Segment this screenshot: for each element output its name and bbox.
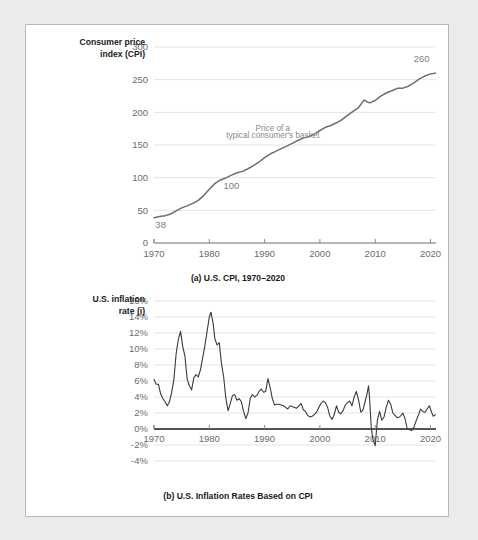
y-tick-label: -4% <box>131 455 148 466</box>
y-tick-label: 250 <box>132 74 148 85</box>
y-tick-label: 4% <box>134 391 148 402</box>
x-tick-label: 2020 <box>420 248 441 259</box>
y-tick-label: 10% <box>129 343 149 354</box>
basket-note-line2: typical consumer's basket <box>226 131 320 140</box>
chart-cpi-annotations: Price of atypical consumer's basket <box>226 124 320 141</box>
x-tick-label: 2010 <box>365 248 386 259</box>
chart-cpi-ylabel-line1: Consumer price <box>80 37 146 47</box>
chart-cpi-gridlines <box>154 47 436 210</box>
x-tick-label: 1980 <box>199 248 220 259</box>
y-tick-label: 8% <box>134 359 148 370</box>
y-tick-label: 50 <box>137 205 148 216</box>
chart-inflation-xtick-labels: 197019801990200020102020 <box>143 433 441 444</box>
x-tick-label: 1990 <box>254 433 275 444</box>
chart-inflation-axes <box>154 425 436 429</box>
chart-cpi-ytick-labels: 050100150200250300 <box>132 41 148 248</box>
chart-cpi-caption: (a) U.S. CPI, 1970–2020 <box>191 273 285 283</box>
x-tick-label: 1980 <box>199 433 220 444</box>
y-tick-label: 100 <box>132 172 148 183</box>
chart-cpi-svg: 050100150200250300 197019801990200020102… <box>26 25 450 287</box>
end-value: 260 <box>414 53 430 64</box>
y-tick-label: 6% <box>134 375 148 386</box>
chart-inflation-ylabel-line1: U.S. inflation <box>92 294 145 304</box>
chart-cpi-axes <box>154 239 436 243</box>
x-tick-label: 1970 <box>143 433 164 444</box>
chart-inflation-gridlines <box>154 301 436 461</box>
x-tick-label: 2000 <box>309 433 330 444</box>
chart-inflation: -4%-2%0%2%4%6%8%10%12%14%16% 19701980199… <box>26 283 450 518</box>
y-tick-label: 12% <box>129 327 149 338</box>
y-tick-label: 150 <box>132 139 148 150</box>
y-tick-label: 200 <box>132 107 148 118</box>
mid-value: 100 <box>223 180 239 191</box>
x-tick-label: 1990 <box>254 248 275 259</box>
y-tick-label: 2% <box>134 407 148 418</box>
chart-cpi-ylabel-line2: index (CPI) <box>100 49 145 59</box>
chart-inflation-svg: -4%-2%0%2%4%6%8%10%12%14%16% 19701980199… <box>26 283 450 518</box>
chart-cpi: 050100150200250300 197019801990200020102… <box>26 25 450 287</box>
chart-cpi-xtick-labels: 197019801990200020102020 <box>143 248 441 259</box>
x-tick-label: 1970 <box>143 248 164 259</box>
start-value: 38 <box>155 219 166 230</box>
chart-inflation-ylabel-line2: rate (i) <box>119 306 145 316</box>
y-tick-label: 0 <box>143 237 148 248</box>
x-tick-label: 2000 <box>309 248 330 259</box>
chart-inflation-caption: (b) U.S. Inflation Rates Based on CPI <box>163 491 312 501</box>
x-tick-label: 2020 <box>420 433 441 444</box>
chart-inflation-series-line <box>154 312 435 446</box>
figure-card: 050100150200250300 197019801990200020102… <box>25 24 449 517</box>
